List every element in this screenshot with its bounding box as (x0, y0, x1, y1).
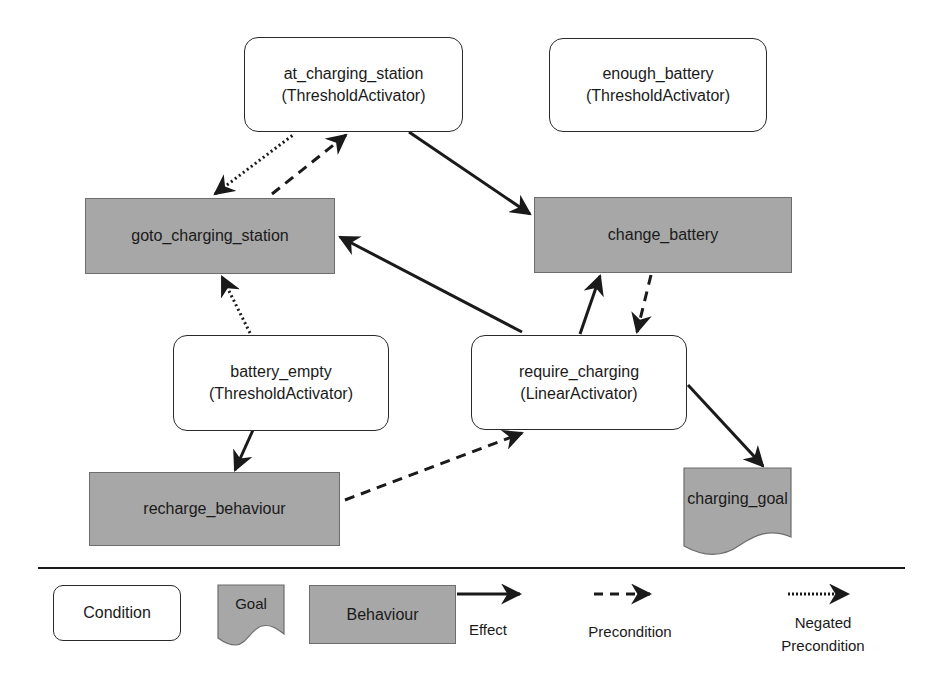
legend-behaviour-box: Behaviour (309, 585, 456, 644)
edge-effect-require-charging-to-goal (688, 385, 763, 466)
legend-negated-label-line1: Negated (768, 612, 878, 633)
node-at-charging-station-name: at_charging_station (284, 63, 424, 85)
node-enough-battery-type: (ThresholdActivator) (586, 85, 730, 107)
node-recharge-behaviour-name: recharge_behaviour (143, 498, 285, 520)
node-enough-battery: enough_battery (ThresholdActivator) (549, 38, 767, 132)
edge-precondition-change-battery-require-charging (637, 275, 651, 332)
edge-effect-battery-empty-to-recharge (235, 430, 253, 470)
legend-condition-box: Condition (53, 585, 181, 641)
node-enough-battery-name: enough_battery (602, 63, 713, 85)
charging-goal-shape (684, 468, 791, 554)
node-require-charging-type: (LinearActivator) (520, 383, 637, 405)
node-require-charging-name: require_charging (519, 361, 639, 383)
node-goto-charging-station-name: goto_charging_station (131, 225, 288, 247)
node-change-battery-name: change_battery (608, 224, 718, 246)
node-charging-goal-name: charging_goal (684, 490, 791, 508)
edge-precondition-recharge-require-charging (345, 433, 522, 500)
legend-condition-label: Condition (83, 602, 151, 624)
edge-effect-require-charging-to-goto (340, 237, 522, 332)
legend-negated-label-line2: Precondition (768, 635, 878, 656)
edge-precondition-goto-at-station (272, 135, 346, 194)
node-change-battery: change_battery (534, 197, 792, 273)
node-battery-empty: battery_empty (ThresholdActivator) (173, 335, 389, 431)
node-battery-empty-name: battery_empty (230, 361, 331, 383)
node-battery-empty-type: (ThresholdActivator) (209, 383, 353, 405)
node-at-charging-station: at_charging_station (ThresholdActivator) (244, 37, 463, 132)
edge-effect-at-station-to-change-battery (409, 132, 530, 214)
node-require-charging: require_charging (LinearActivator) (471, 335, 687, 430)
node-at-charging-station-type: (ThresholdActivator) (281, 85, 425, 107)
node-goto-charging-station: goto_charging_station (85, 198, 335, 274)
legend-behaviour-label: Behaviour (346, 604, 418, 626)
node-recharge-behaviour: recharge_behaviour (89, 472, 340, 546)
legend-effect-label: Effect (448, 619, 528, 640)
edge-effect-require-charging-to-change-battery (580, 276, 600, 334)
legend-precondition-label: Precondition (570, 621, 690, 642)
legend-goal-shape (218, 585, 284, 645)
edge-negated-battery-empty-goto (222, 277, 250, 333)
edge-negated-goto-to-at-station (215, 135, 293, 194)
legend-goal-label: Goal (218, 595, 284, 612)
